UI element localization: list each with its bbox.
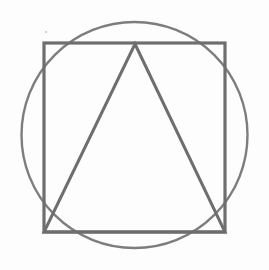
- scan-speck-artifact: [45, 31, 47, 33]
- geometric-figure-svg: [0, 0, 269, 270]
- figure-container: [0, 0, 269, 270]
- figure-background: [0, 0, 269, 270]
